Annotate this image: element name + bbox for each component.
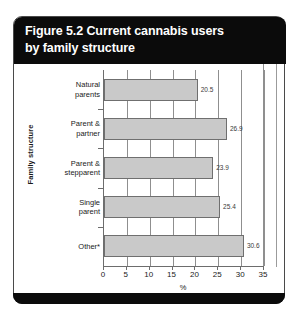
figure-card-bottom-bar: [13, 293, 285, 304]
figure-title-line-1: Figure 5.2 Current cannabis users: [25, 23, 276, 40]
bar-value-label: 25.4: [223, 203, 236, 210]
y-axis-tick-label-line: Single: [32, 198, 100, 208]
x-axis-tick-label: 5: [116, 270, 136, 279]
y-axis-tick-label: Singleparent: [32, 198, 100, 217]
x-axis-tick-label: 10: [139, 270, 159, 279]
figure-card: Figure 5.2 Current cannabis users by fam…: [13, 16, 285, 304]
x-axis-tick-label: 25: [207, 270, 227, 279]
figure-title-banner: Figure 5.2 Current cannabis users by fam…: [14, 17, 286, 64]
y-axis-minor-tick: [98, 109, 103, 110]
x-axis-title: %: [103, 283, 263, 292]
y-axis-tick-label: Parent &partner: [32, 119, 100, 138]
y-axis-minor-tick: [98, 188, 103, 189]
bar: [104, 196, 220, 218]
x-axis-tick-label: 15: [162, 270, 182, 279]
plot-area: [103, 70, 264, 267]
x-axis-tick-label: 20: [184, 270, 204, 279]
gridline: [264, 70, 265, 266]
y-axis-minor-tick: [98, 148, 103, 149]
bar-value-label: 23.9: [216, 164, 229, 171]
chart-plot-region: Family structure NaturalparentsParent &p…: [14, 64, 286, 304]
bar-value-label: 30.6: [247, 242, 260, 249]
y-axis-tick-label-line: partner: [32, 129, 100, 139]
y-axis-tick-label-line: parent: [32, 207, 100, 217]
bar: [104, 235, 244, 257]
bar: [104, 79, 198, 101]
bar-value-label: 20.5: [201, 86, 214, 93]
y-axis-tick-labels: NaturalparentsParent &partnerParent &ste…: [32, 70, 100, 266]
plot-frame-far-right: [276, 64, 277, 267]
x-axis-tick-label: 0: [93, 270, 113, 279]
x-axis-tick-label: 35: [253, 270, 273, 279]
y-axis-tick-label: Naturalparents: [32, 80, 100, 99]
bar: [104, 118, 227, 140]
y-axis-minor-tick: [98, 227, 103, 228]
plot-frame-right: [263, 64, 264, 267]
y-axis-tick-label-line: stepparent: [32, 168, 100, 178]
y-axis-tick-label: Other*: [32, 242, 100, 252]
y-axis-tick-label-line: Other*: [32, 242, 100, 252]
y-axis-tick-label: Parent &stepparent: [32, 159, 100, 178]
bar: [104, 157, 213, 179]
y-axis-tick-label-line: Parent &: [32, 119, 100, 129]
x-axis-tick-label: 30: [230, 270, 250, 279]
bar-value-label: 26.9: [230, 125, 243, 132]
y-axis-tick-label-line: parents: [32, 90, 100, 100]
figure-title-line-2: by family structure: [25, 40, 276, 57]
y-axis-tick-label-line: Parent &: [32, 159, 100, 169]
y-axis-tick-label-line: Natural: [32, 80, 100, 90]
